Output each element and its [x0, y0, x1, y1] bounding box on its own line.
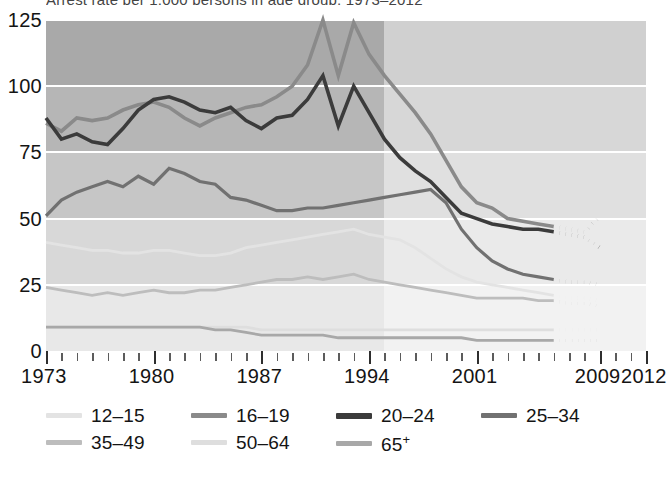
- x-tick-label: 2009: [575, 366, 621, 386]
- x-tick-major: [46, 351, 48, 364]
- series-line-35-49: [554, 301, 600, 306]
- x-tick-minor: [292, 353, 294, 361]
- x-tick-minor: [554, 353, 556, 361]
- legend-row-2: 35–4950–6465+: [46, 433, 646, 460]
- y-tick-label: 75: [19, 142, 42, 162]
- chart-title-sliver: Arrest rate per 1,000 persons in age gro…: [46, 0, 646, 5]
- x-tick-minor: [323, 353, 325, 361]
- x-tick-minor: [461, 353, 463, 361]
- legend-item-20-24[interactable]: 20–24: [336, 406, 435, 425]
- x-tick-minor: [584, 353, 586, 361]
- x-tick-minor: [446, 353, 448, 361]
- legend-swatch-icon: [481, 413, 517, 419]
- x-tick-minor: [431, 353, 433, 361]
- x-tick-label: 1994: [344, 366, 390, 386]
- x-tick-minor: [508, 353, 510, 361]
- x-tick-minor: [354, 353, 356, 361]
- legend-swatch-icon: [46, 413, 82, 418]
- x-tick-minor: [400, 353, 402, 361]
- series-line-12-15: [46, 229, 554, 295]
- x-tick-minor: [615, 353, 617, 361]
- x-tick-minor: [384, 353, 386, 361]
- legend-swatch-icon: [336, 413, 372, 419]
- legend-label: 25–34: [526, 406, 580, 425]
- legend-label: 35–49: [91, 433, 145, 452]
- y-tick-label: 100: [8, 76, 42, 96]
- legend-swatch-icon: [336, 441, 372, 446]
- legend-swatch-icon: [191, 440, 227, 445]
- x-tick-minor: [200, 353, 202, 361]
- x-tick-minor: [231, 353, 233, 361]
- y-tick-label: 125: [8, 10, 42, 30]
- x-tick-minor: [246, 353, 248, 361]
- x-tick-label: 1973: [21, 366, 67, 386]
- legend-item-25-34[interactable]: 25–34: [481, 406, 580, 425]
- x-tick-minor: [169, 353, 171, 361]
- x-tick-minor: [108, 353, 110, 361]
- legend-item-65+[interactable]: 65+: [336, 433, 410, 454]
- x-tick-minor: [631, 353, 633, 361]
- x-axis-ticks: [46, 351, 646, 365]
- series-line-16-19: [46, 20, 554, 227]
- x-tick-minor: [538, 353, 540, 361]
- x-tick-minor: [338, 353, 340, 361]
- x-tick-minor: [308, 353, 310, 361]
- x-tick-minor: [569, 353, 571, 361]
- y-tick-label: 50: [19, 209, 42, 229]
- series-line-35-49: [46, 274, 554, 300]
- legend-item-35-49[interactable]: 35–49: [46, 433, 145, 452]
- legend-item-50-64[interactable]: 50–64: [191, 433, 290, 452]
- x-tick-label: 1987: [236, 366, 282, 386]
- legend-label: 16–19: [236, 406, 290, 425]
- x-tick-major: [261, 351, 263, 364]
- x-tick-minor: [77, 353, 79, 361]
- y-tick-label: 0: [31, 341, 42, 361]
- x-tick-major: [154, 351, 156, 364]
- x-tick-minor: [215, 353, 217, 361]
- x-tick-minor: [492, 353, 494, 361]
- series-line-20-24: [554, 232, 600, 248]
- series-line-25-34: [46, 168, 554, 279]
- x-tick-minor: [138, 353, 140, 361]
- legend-label: 12–15: [91, 406, 145, 425]
- chart-legend: 12–1516–1920–2425–34 35–4950–6465+: [46, 406, 646, 460]
- series-line-12-15: [554, 295, 600, 300]
- series-line-25-34: [554, 280, 600, 285]
- x-tick-minor: [92, 353, 94, 361]
- legend-row-1: 12–1516–1920–2425–34: [46, 406, 646, 433]
- legend-label: 65+: [381, 433, 410, 454]
- x-tick-label: 2001: [452, 366, 498, 386]
- x-tick-minor: [277, 353, 279, 361]
- x-tick-minor: [123, 353, 125, 361]
- legend-swatch-icon: [46, 440, 82, 445]
- x-tick-major: [646, 351, 648, 364]
- x-tick-major: [477, 351, 479, 364]
- legend-label: 20–24: [381, 406, 435, 425]
- x-tick-major: [600, 351, 602, 364]
- y-axis-labels: 0255075100125: [0, 0, 42, 371]
- legend-label: 50–64: [236, 433, 290, 452]
- x-tick-label: 2012: [621, 366, 667, 386]
- series-line-16-19: [554, 216, 600, 232]
- legend-swatch-icon: [191, 413, 227, 419]
- plot-area: [46, 20, 646, 351]
- x-tick-major: [369, 351, 371, 364]
- x-tick-minor: [415, 353, 417, 361]
- legend-item-16-19[interactable]: 16–19: [191, 406, 290, 425]
- legend-item-12-15[interactable]: 12–15: [46, 406, 145, 425]
- x-tick-minor: [184, 353, 186, 361]
- x-tick-minor: [523, 353, 525, 361]
- x-tick-minor: [61, 353, 63, 361]
- x-tick-label: 1980: [129, 366, 175, 386]
- x-axis-labels: 1973198019871994200120092012: [0, 366, 652, 394]
- series-lines: [46, 20, 646, 351]
- y-tick-label: 25: [19, 275, 42, 295]
